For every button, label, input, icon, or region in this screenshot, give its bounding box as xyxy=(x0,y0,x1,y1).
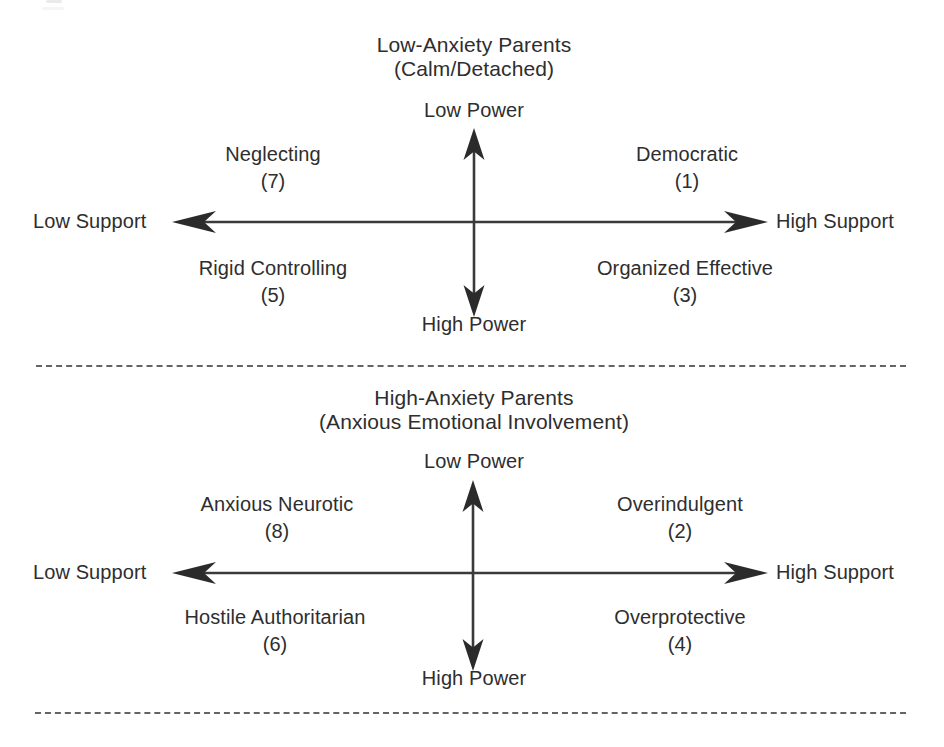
arrowhead-left-icon-2 xyxy=(172,562,216,584)
arrowhead-right-icon-2 xyxy=(724,562,768,584)
axis-label-high-support-right: High Support xyxy=(776,211,894,232)
panel-title-high-anxiety: High-Anxiety Parents xyxy=(374,387,573,409)
quadrant-label-anxious-neurotic: Anxious Neurotic xyxy=(201,494,354,515)
axis-label-high-power-bottom: High Power xyxy=(422,314,526,335)
quadrant-number-hostile-authoritarian: (6) xyxy=(263,634,288,655)
axis-label-high-support-right-2: High Support xyxy=(776,562,894,583)
quadrant-number-overindulgent: (2) xyxy=(668,521,693,542)
quadrant-label-democratic: Democratic xyxy=(636,144,738,165)
scan-artifact xyxy=(42,7,64,10)
arrowhead-right-icon xyxy=(724,211,768,233)
arrowhead-left-icon xyxy=(172,211,216,233)
axis-label-low-support-left-2: Low Support xyxy=(33,562,146,583)
quadrant-number-organized-effective: (3) xyxy=(673,285,698,306)
quadrant-number-neglecting: (7) xyxy=(261,171,286,192)
axis-label-high-power-bottom-2: High Power xyxy=(422,668,526,689)
axis-label-low-support-left: Low Support xyxy=(33,211,146,232)
axis-label-low-power-top-2: Low Power xyxy=(424,451,524,472)
quadrant-label-neglecting: Neglecting xyxy=(225,144,321,165)
arrowhead-up-icon-2 xyxy=(463,480,484,512)
quadrant-label-rigid-controlling: Rigid Controlling xyxy=(199,258,347,279)
quadrant-number-rigid-controlling: (5) xyxy=(261,285,286,306)
quadrant-label-overindulgent: Overindulgent xyxy=(617,494,743,515)
quadrant-number-overprotective: (4) xyxy=(668,634,693,655)
quadrant-number-anxious-neurotic: (8) xyxy=(265,521,290,542)
section-divider-bottom xyxy=(35,712,906,714)
axis-label-low-power-top: Low Power xyxy=(424,100,524,121)
section-divider-top xyxy=(36,365,906,367)
panel-title-low-anxiety: Low-Anxiety Parents xyxy=(377,34,572,56)
parenting-styles-diagram: Low-Anxiety Parents (Calm/Detached) Low … xyxy=(0,0,944,747)
scan-artifact xyxy=(46,0,62,3)
quadrant-label-overprotective: Overprotective xyxy=(614,607,745,628)
quadrant-number-democratic: (1) xyxy=(675,171,700,192)
panel-subtitle-high-anxiety: (Anxious Emotional Involvement) xyxy=(319,411,629,433)
panel-subtitle-low-anxiety: (Calm/Detached) xyxy=(394,58,554,80)
arrowhead-up-icon xyxy=(464,128,485,160)
quadrant-label-hostile-authoritarian: Hostile Authoritarian xyxy=(184,607,365,628)
quadrant-label-organized-effective: Organized Effective xyxy=(597,258,773,279)
